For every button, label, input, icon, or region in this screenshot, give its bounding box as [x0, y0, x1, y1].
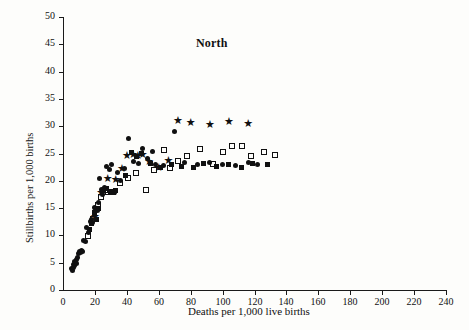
y-tick	[59, 181, 64, 182]
data-point-circle	[69, 266, 74, 271]
data-point-filled-square	[104, 186, 109, 191]
data-point-filled-square	[94, 217, 99, 222]
data-point-circle	[74, 261, 79, 266]
data-point-filled-square	[226, 162, 231, 167]
x-tick	[446, 291, 447, 295]
x-tick	[286, 291, 287, 295]
y-tick	[59, 263, 64, 264]
data-point-filled-square	[265, 162, 270, 167]
data-point-circle	[76, 251, 81, 256]
data-point-filled-square	[201, 161, 206, 166]
data-point-star: ★	[224, 116, 234, 127]
data-point-circle	[81, 238, 86, 243]
data-point-filled-square	[129, 150, 134, 155]
data-point-star: ★	[205, 119, 215, 130]
data-point-open-square	[90, 216, 96, 222]
data-point-open-square	[117, 180, 123, 186]
data-point-filled-square	[179, 164, 184, 169]
data-point-circle	[83, 239, 88, 244]
data-point-circle	[70, 268, 75, 273]
data-point-circle	[92, 205, 97, 210]
x-tick	[318, 291, 319, 295]
y-tick	[59, 235, 64, 236]
y-tick-label: 25	[29, 147, 55, 158]
data-point-filled-square	[239, 165, 244, 170]
data-point-circle	[95, 208, 100, 213]
data-point-star: ★	[173, 115, 183, 126]
data-point-circle	[207, 160, 212, 165]
data-point-star: ★	[163, 155, 173, 166]
data-point-circle	[72, 259, 77, 264]
data-point-circle	[140, 146, 145, 151]
x-tick-label: 100	[209, 296, 237, 307]
data-point-open-square	[229, 143, 235, 149]
data-point-open-square	[239, 143, 245, 149]
data-point-filled-square	[169, 162, 174, 167]
data-point-circle	[77, 249, 82, 254]
data-point-star: ★	[133, 150, 143, 161]
x-tick-label: 180	[336, 296, 364, 307]
data-point-open-square	[85, 233, 91, 239]
data-point-circle	[104, 164, 109, 169]
x-tick-label: 120	[241, 296, 269, 307]
data-point-filled-square	[96, 206, 101, 211]
data-point-open-square	[175, 158, 181, 164]
data-point-filled-square	[92, 210, 97, 215]
data-point-circle	[84, 225, 89, 230]
data-point-open-square	[210, 161, 216, 167]
x-tick-label: 220	[400, 296, 428, 307]
x-tick-label: 0	[49, 296, 77, 307]
data-point-circle	[71, 265, 76, 270]
data-point-star: ★	[111, 174, 121, 185]
data-point-circle	[145, 156, 150, 161]
data-point-open-square	[248, 153, 254, 159]
data-point-star: ★	[117, 163, 127, 174]
y-tick-label: 45	[29, 37, 55, 48]
data-point-filled-square	[158, 165, 163, 170]
data-point-circle	[122, 166, 127, 171]
y-tick-label: 40	[29, 65, 55, 76]
data-point-filled-square	[191, 165, 196, 170]
data-point-circle	[89, 217, 94, 222]
data-point-circle	[96, 200, 101, 205]
y-tick-label: 50	[29, 10, 55, 21]
y-tick	[59, 72, 64, 73]
data-point-circle	[131, 159, 136, 164]
data-point-open-square	[261, 149, 267, 155]
x-tick-label: 160	[304, 296, 332, 307]
data-point-circle	[100, 192, 105, 197]
data-point-circle	[182, 160, 187, 165]
y-tick-label: 20	[29, 174, 55, 185]
data-point-star: ★	[154, 162, 164, 173]
y-tick	[59, 126, 64, 127]
data-point-open-square	[161, 147, 167, 153]
data-point-star: ★	[128, 149, 138, 160]
data-point-circle	[220, 162, 225, 167]
data-point-circle	[72, 263, 77, 268]
x-tick-label: 40	[113, 296, 141, 307]
data-point-circle	[99, 187, 104, 192]
x-tick	[95, 291, 96, 295]
data-point-circle	[118, 178, 123, 183]
data-point-circle	[79, 248, 84, 253]
data-point-circle	[86, 230, 91, 235]
data-point-star: ★	[103, 173, 113, 184]
data-point-star: ★	[122, 150, 132, 161]
y-tick-label: 30	[29, 119, 55, 130]
data-point-filled-square	[139, 151, 144, 156]
y-tick	[59, 290, 64, 291]
data-point-circle	[88, 219, 93, 224]
y-tick-label: 10	[29, 228, 55, 239]
y-tick-label: 15	[29, 201, 55, 212]
data-point-circle	[78, 250, 83, 255]
x-tick-label: 80	[177, 296, 205, 307]
y-tick-label: 5	[29, 256, 55, 267]
data-point-open-square	[110, 189, 116, 195]
data-point-filled-square	[113, 188, 118, 193]
data-point-open-square	[95, 202, 101, 208]
data-point-circle	[172, 129, 177, 134]
x-tick	[382, 291, 383, 295]
data-point-circle	[75, 255, 80, 260]
x-tick	[191, 291, 192, 295]
data-point-filled-square	[100, 188, 105, 193]
